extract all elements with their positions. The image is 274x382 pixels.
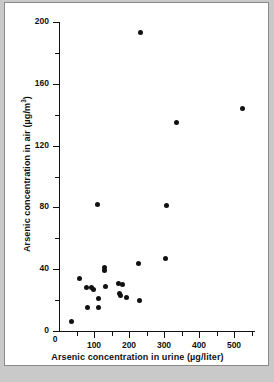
data-point bbox=[96, 296, 101, 301]
y-axis-title-main: Arsenic concentration in air (µg/m bbox=[22, 103, 32, 252]
data-point bbox=[138, 30, 143, 35]
data-point bbox=[124, 295, 129, 300]
scatter-plot: 040801201602000100200300400500 Arsenic c… bbox=[5, 3, 268, 365]
data-point bbox=[136, 261, 141, 266]
data-point bbox=[240, 106, 245, 111]
data-point bbox=[103, 284, 108, 289]
data-point bbox=[120, 282, 125, 287]
data-point bbox=[91, 287, 96, 292]
page-bottom-edge bbox=[0, 368, 274, 382]
data-point bbox=[118, 293, 123, 298]
data-point bbox=[85, 305, 90, 310]
data-point bbox=[96, 305, 101, 310]
data-point bbox=[95, 202, 100, 207]
data-point bbox=[102, 268, 107, 273]
data-point bbox=[69, 319, 74, 324]
data-point bbox=[163, 256, 168, 261]
x-axis-title: Arsenic concentration in urine (µg/liter… bbox=[5, 352, 270, 362]
data-point bbox=[164, 203, 169, 208]
data-point bbox=[84, 285, 89, 290]
data-point bbox=[77, 276, 82, 281]
data-point bbox=[137, 298, 142, 303]
data-point bbox=[174, 120, 179, 125]
y-axis-title-close: ) bbox=[22, 96, 32, 99]
y-axis-title: Arsenic concentration in air (µg/m3) bbox=[20, 74, 32, 274]
figure-frame: 040801201602000100200300400500 Arsenic c… bbox=[4, 2, 269, 366]
data-points-layer bbox=[5, 3, 268, 365]
y-axis-title-exponent: 3 bbox=[20, 99, 27, 103]
